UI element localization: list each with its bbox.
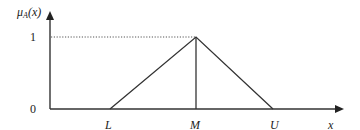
triangle-membership-curve xyxy=(110,37,273,109)
x-point-m: M xyxy=(190,119,200,130)
y-axis-arrow-icon xyxy=(46,11,54,20)
argument-x: (x) xyxy=(28,5,41,19)
y-tick-zero: 0 xyxy=(30,103,36,115)
y-axis-label: μA(x) xyxy=(17,6,41,20)
membership-function-diagram: μA(x) 1 0 L M U x xyxy=(0,0,360,130)
x-axis-arrow-icon xyxy=(335,105,344,113)
diagram-canvas xyxy=(0,0,360,130)
y-tick-one: 1 xyxy=(30,31,36,43)
x-point-l: L xyxy=(105,119,112,130)
x-point-u: U xyxy=(270,119,279,130)
x-axis-label: x xyxy=(328,119,333,130)
